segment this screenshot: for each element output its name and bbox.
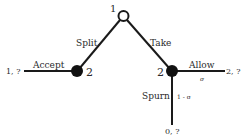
allow-label: Allow — [188, 60, 215, 70]
allow-probability-sigma: σ — [200, 75, 205, 82]
accept-label: Accept — [32, 60, 65, 70]
right-node-player-label: 2 — [157, 66, 164, 79]
root-player-label: 1 — [110, 3, 116, 14]
left-decision-node — [71, 65, 83, 77]
allow-payoff: 2, ? — [226, 67, 240, 76]
spurn-payoff: 0, ? — [165, 127, 179, 136]
left-node-player-label: 2 — [86, 66, 93, 79]
spurn-label: Spurn — [142, 91, 170, 101]
spurn-probability: 1 - σ — [177, 93, 191, 100]
right-decision-node — [166, 65, 178, 77]
root-node-open-circle — [119, 11, 129, 21]
accept-payoff: 1, ? — [6, 67, 20, 76]
split-label: Split — [76, 38, 98, 48]
take-label: Take — [150, 38, 171, 48]
game-tree-diagram: 1 2 2 Split Take Accept Allow σ Spurn 1 … — [0, 0, 244, 137]
